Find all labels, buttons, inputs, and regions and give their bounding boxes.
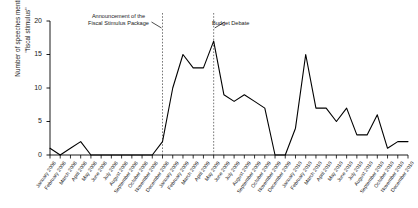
annotation-leader-budget-debate (215, 22, 225, 28)
annotation-leader-fiscal-stimulus (152, 22, 162, 28)
y-tick-label: 10 (28, 84, 42, 91)
chart-figure: Number of speeches mentioning "fiscal st… (0, 0, 418, 208)
y-tick-label: 20 (28, 17, 42, 24)
y-tick-label: 5 (28, 117, 42, 124)
y-tick-label: 0 (28, 151, 42, 158)
data-series-line (50, 41, 408, 155)
y-tick-label: 15 (28, 50, 42, 57)
